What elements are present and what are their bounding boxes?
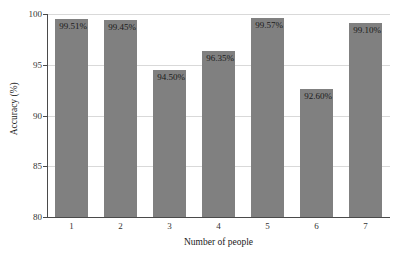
bar[interactable]: 99.57% bbox=[251, 18, 283, 217]
y-tick-mark bbox=[43, 217, 47, 218]
x-tick-label: 6 bbox=[292, 222, 341, 231]
y-axis-title: Accuracy (%) bbox=[10, 54, 20, 164]
x-tick-label: 3 bbox=[145, 222, 194, 231]
bar-group[interactable]: 99.45% bbox=[104, 14, 136, 217]
x-tick-label: 1 bbox=[47, 222, 96, 231]
bar-value-label: 99.45% bbox=[108, 23, 136, 32]
bar-value-label: 92.60% bbox=[304, 92, 332, 101]
y-tick-mark bbox=[43, 116, 47, 117]
y-tick-mark bbox=[43, 65, 47, 66]
y-tick-mark bbox=[43, 166, 47, 167]
bar-group[interactable]: 92.60% bbox=[300, 14, 332, 217]
bars-layer: 99.51%99.45%94.50%96.35%99.57%92.60%99.1… bbox=[47, 14, 390, 217]
bar[interactable]: 96.35% bbox=[202, 51, 234, 217]
bar-chart: 99.51%99.45%94.50%96.35%99.57%92.60%99.1… bbox=[0, 0, 403, 260]
bar[interactable]: 92.60% bbox=[300, 89, 332, 217]
bar-group[interactable]: 94.50% bbox=[153, 14, 185, 217]
x-axis-line bbox=[47, 217, 390, 218]
x-axis-title: Number of people bbox=[47, 238, 390, 248]
y-axis-line bbox=[47, 14, 48, 218]
bar-value-label: 99.57% bbox=[255, 21, 283, 30]
x-tick-label: 5 bbox=[243, 222, 292, 231]
bar[interactable]: 99.51% bbox=[55, 19, 87, 217]
x-tick-label: 2 bbox=[96, 222, 145, 231]
bar[interactable]: 94.50% bbox=[153, 70, 185, 217]
y-tick-mark bbox=[43, 14, 47, 15]
y-tick-label: 100 bbox=[2, 10, 42, 19]
bar[interactable]: 99.45% bbox=[104, 20, 136, 217]
y-axis-tick-labels: 80859095100 bbox=[0, 0, 42, 260]
y-tick-label: 90 bbox=[2, 112, 42, 121]
x-tick-label: 7 bbox=[341, 222, 390, 231]
bar-value-label: 99.10% bbox=[353, 26, 381, 35]
bar[interactable]: 99.10% bbox=[349, 23, 381, 217]
y-tick-label: 80 bbox=[2, 213, 42, 222]
bar-value-label: 94.50% bbox=[157, 73, 185, 82]
x-tick-label: 4 bbox=[194, 222, 243, 231]
bar-group[interactable]: 99.51% bbox=[55, 14, 87, 217]
bar-value-label: 99.51% bbox=[59, 22, 87, 31]
bar-group[interactable]: 96.35% bbox=[202, 14, 234, 217]
y-tick-label: 95 bbox=[2, 61, 42, 70]
y-tick-label: 85 bbox=[2, 162, 42, 171]
bar-value-label: 96.35% bbox=[206, 54, 234, 63]
bar-group[interactable]: 99.10% bbox=[349, 14, 381, 217]
bar-group[interactable]: 99.57% bbox=[251, 14, 283, 217]
